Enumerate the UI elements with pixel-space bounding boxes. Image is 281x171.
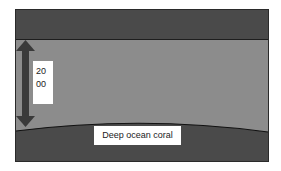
depth-label-line-1: 20 [36,65,53,78]
depth-label-line-2: 00 [36,78,53,91]
deep-ocean-coral-label: Deep ocean coral [94,126,181,145]
depth-label: 20 00 [33,61,53,104]
